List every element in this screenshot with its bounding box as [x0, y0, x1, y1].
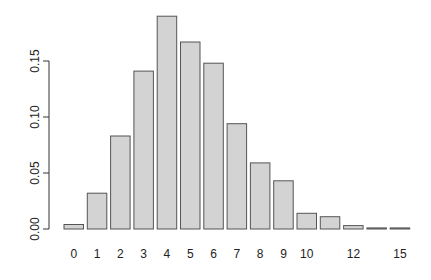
- bar-2: [111, 136, 131, 229]
- bar-4: [157, 16, 177, 229]
- bar-3: [134, 71, 154, 229]
- x-tick-label: 6: [210, 247, 217, 261]
- y-tick-label: 0.05: [28, 161, 42, 185]
- x-tick-label: 12: [347, 247, 361, 261]
- x-tick-label: 1: [94, 247, 101, 261]
- bar-8: [250, 163, 270, 229]
- x-axis-labels: 0123456789101215: [70, 247, 406, 261]
- x-tick-label: 7: [233, 247, 240, 261]
- x-tick-label: 5: [187, 247, 194, 261]
- bar-5: [181, 42, 201, 229]
- bar-1: [87, 193, 107, 229]
- y-tick-label: 0.10: [28, 105, 42, 129]
- x-tick-label: 2: [117, 247, 124, 261]
- y-tick-label: 0.15: [28, 49, 42, 73]
- bars: [64, 16, 410, 229]
- bar-6: [204, 63, 224, 229]
- x-tick-label: 8: [257, 247, 264, 261]
- bar-11: [320, 217, 340, 229]
- x-tick-label: 9: [280, 247, 287, 261]
- y-axis: 0.000.050.100.15: [28, 49, 49, 241]
- bar-0: [64, 225, 84, 230]
- x-tick-label: 10: [300, 247, 314, 261]
- y-tick-label: 0.00: [28, 217, 42, 241]
- x-tick-label: 3: [140, 247, 147, 261]
- bar-7: [227, 124, 247, 229]
- bar-chart: 0.000.050.100.15 0123456789101215: [0, 0, 431, 280]
- bar-9: [274, 181, 294, 229]
- bar-12: [344, 226, 364, 229]
- x-tick-label: 0: [70, 247, 77, 261]
- x-tick-label: 4: [164, 247, 171, 261]
- bar-15: [390, 228, 410, 229]
- bar-10: [297, 213, 317, 229]
- bar-14: [367, 228, 387, 229]
- x-tick-label: 15: [393, 247, 407, 261]
